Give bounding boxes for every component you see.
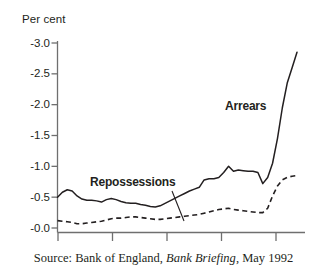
axes-group [52, 41, 306, 241]
series-annotation-arrears: Arrears [225, 99, 266, 113]
caption-prefix: Source: Bank of England, [34, 251, 163, 265]
x-tick-marks [58, 233, 276, 242]
chart-figure: Per cent -3.0 -2.5 -2.0 -1.5 -1.0 -0.5 -… [0, 0, 327, 274]
caption-publication-title: Bank Briefing [166, 251, 236, 265]
y-tick-marks [52, 43, 58, 228]
caption-suffix: , May 1992 [236, 251, 293, 265]
series-annotation-repossessions: Repossessions [90, 175, 175, 189]
plot-area [0, 0, 327, 274]
source-caption: Source: Bank of England, Bank Briefing, … [0, 251, 327, 266]
